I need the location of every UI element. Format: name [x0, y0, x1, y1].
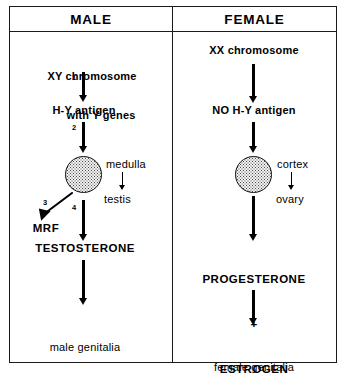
- node-male-testis: testis: [104, 193, 164, 206]
- step-number-4: 4: [72, 204, 76, 212]
- diagram-body-row: XY chromosome with Y genes 1 H-Y antigen…: [10, 32, 336, 362]
- arrow-male-5: [79, 260, 88, 306]
- column-header-female-label: FEMALE: [224, 12, 284, 27]
- arrow-female-cortex-to-ovary: [287, 172, 296, 192]
- arrow-female-3: [249, 196, 258, 242]
- arrow-male-1: [79, 72, 88, 103]
- arrow-male-2: [79, 122, 88, 154]
- node-female-no-hy-antigen: NO H-Y antigen: [185, 104, 323, 117]
- gonad-circle-male: [65, 156, 102, 193]
- node-female-chromosome: XX chromosome: [185, 44, 323, 57]
- node-female-hormone-line1: PROGESTERONE: [179, 272, 329, 287]
- column-header-male-label: MALE: [70, 12, 111, 27]
- node-male-mrf: MRF: [20, 222, 72, 236]
- node-male-medulla: medulla: [106, 158, 166, 171]
- node-male-outcome-line1: male genitalia: [23, 340, 147, 355]
- step-number-2: 2: [72, 124, 76, 132]
- column-female: XX chromosome NO H-Y antigen cortex: [173, 32, 336, 362]
- diagram-header-row: MALE FEMALE: [10, 7, 336, 32]
- arrow-male-4: [79, 200, 88, 242]
- column-male: XY chromosome with Y genes 1 H-Y antigen…: [10, 32, 173, 362]
- node-female-outcome: female genitalia + external sex characte…: [185, 330, 323, 378]
- arrow-female-4: [249, 290, 258, 326]
- node-male-hy-antigen: H-Y antigen: [23, 104, 145, 117]
- gonad-circle-female: [235, 156, 272, 193]
- arrow-male-medulla-to-testis: [118, 172, 127, 192]
- node-male-chromosome: XY chromosome with Y genes: [28, 44, 156, 148]
- arrow-female-1: [249, 64, 258, 104]
- arrow-male-3-diagonal: [30, 190, 76, 224]
- node-male-outcome: male genitalia + external sex characteri…: [23, 310, 147, 378]
- node-male-chromosome-line1: XY chromosome: [28, 70, 156, 83]
- column-header-male: MALE: [10, 7, 173, 31]
- node-female-outcome-line1: female genitalia: [185, 360, 323, 375]
- node-female-cortex: cortex: [277, 158, 337, 171]
- column-header-female: FEMALE: [173, 7, 336, 31]
- arrow-female-2: [249, 122, 258, 154]
- node-female-ovary: ovary: [276, 193, 336, 206]
- step-number-1: 1: [72, 74, 76, 82]
- sex-differentiation-diagram: MALE FEMALE XY chromosome with Y genes 1…: [9, 6, 337, 363]
- node-male-testosterone: TESTOSTERONE: [18, 242, 152, 256]
